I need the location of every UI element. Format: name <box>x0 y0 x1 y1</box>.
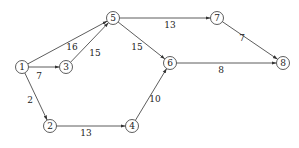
node-label: 5 <box>110 13 116 23</box>
edge-weight-label: 16 <box>66 42 78 52</box>
node-label: 6 <box>167 58 173 68</box>
edges-layer: 1672151315131087 <box>25 18 278 138</box>
edge-weight-label: 13 <box>164 20 176 30</box>
node-label: 3 <box>63 62 69 72</box>
edge-weight-label: 2 <box>27 95 33 105</box>
edge-weight-label: 7 <box>36 71 42 81</box>
edge-weight-label: 15 <box>89 48 101 58</box>
edge-weight-label: 7 <box>239 33 245 43</box>
graph-diagram: 1672151315131087 12345678 <box>0 0 299 148</box>
node-7: 7 <box>211 12 224 25</box>
edge-weight-label: 10 <box>149 94 161 104</box>
node-label: 7 <box>214 13 220 23</box>
edge-weight-label: 15 <box>131 42 143 52</box>
edge-weight-label: 13 <box>80 128 92 138</box>
nodes-layer: 12345678 <box>16 12 290 133</box>
edge-7-8 <box>222 22 277 60</box>
node-label: 4 <box>129 121 135 131</box>
graph-svg: 1672151315131087 12345678 <box>0 0 299 148</box>
node-2: 2 <box>44 120 57 133</box>
node-6: 6 <box>164 57 177 70</box>
node-5: 5 <box>107 12 120 25</box>
edge-5-6 <box>118 22 165 59</box>
node-label: 1 <box>19 62 25 72</box>
edge-weight-label: 8 <box>218 65 224 75</box>
node-3: 3 <box>60 61 73 74</box>
node-label: 8 <box>280 58 286 68</box>
node-4: 4 <box>126 120 139 133</box>
node-1: 1 <box>16 61 29 74</box>
node-8: 8 <box>277 57 290 70</box>
node-label: 2 <box>47 121 53 131</box>
